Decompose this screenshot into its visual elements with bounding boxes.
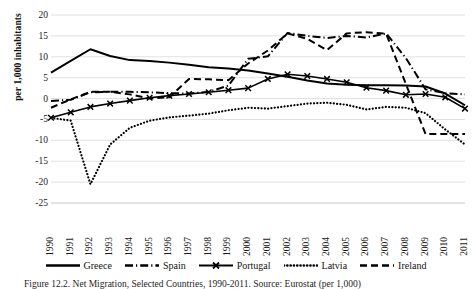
x-tick-2010: 2010 <box>440 237 450 256</box>
x-tick-1993: 1993 <box>105 237 115 256</box>
legend-label-portugal: Portugal <box>237 260 271 271</box>
x-tick-1996: 1996 <box>164 237 174 256</box>
y-tick-15: 15 <box>39 31 49 41</box>
x-tick-2011: 2011 <box>460 237 470 256</box>
x-tick-1994: 1994 <box>125 237 135 256</box>
legend-item-spain[interactable]: Spain <box>125 260 186 271</box>
y-tick-5: 5 <box>43 73 48 83</box>
y-tick-10: 10 <box>39 52 49 62</box>
x-tick-1999: 1999 <box>223 237 233 256</box>
y-axis-tick-labels: 20151050-5-10-15-20-25 <box>18 15 48 203</box>
dotted-line-key <box>284 260 318 271</box>
x-marker-line-key <box>199 260 233 271</box>
legend-label-spain: Spain <box>163 260 186 271</box>
chart-canvas <box>51 15 465 203</box>
legend-label-latvia: Latvia <box>322 260 348 271</box>
legend-item-portugal[interactable]: Portugal <box>199 260 271 271</box>
x-tick-2009: 2009 <box>421 237 431 256</box>
x-tick-1990: 1990 <box>46 237 56 256</box>
figure-caption: Figure 12.2. Net Migration, Selected Cou… <box>24 279 454 289</box>
x-tick-2007: 2007 <box>381 237 391 256</box>
series-line-latvia <box>51 103 465 184</box>
x-tick-2008: 2008 <box>401 237 411 256</box>
x-tick-2006: 2006 <box>361 237 371 256</box>
x-tick-1991: 1991 <box>66 237 76 256</box>
y-tick-0: 0 <box>43 94 48 104</box>
legend-label-ireland: Ireland <box>398 260 426 271</box>
x-tick-1997: 1997 <box>184 237 194 256</box>
x-tick-1995: 1995 <box>145 237 155 256</box>
legend-item-ireland[interactable]: Ireland <box>360 260 426 271</box>
x-tick-2001: 2001 <box>263 237 273 256</box>
y-tick--20: -20 <box>35 177 48 187</box>
chart-figure: per 1,000 inhabitants 20151050-5-10-15-2… <box>0 0 472 289</box>
x-tick-2002: 2002 <box>283 237 293 256</box>
y-tick--10: -10 <box>35 135 48 145</box>
series-line-spain <box>51 33 465 101</box>
legend-item-latvia[interactable]: Latvia <box>284 260 348 271</box>
dashed-line-key <box>360 260 394 271</box>
solid-line-key <box>46 260 80 271</box>
y-tick--15: -15 <box>35 156 48 166</box>
dash-dot-line-key <box>125 260 159 271</box>
y-tick-20: 20 <box>39 10 49 20</box>
y-tick--25: -25 <box>35 198 48 208</box>
x-tick-1992: 1992 <box>85 237 95 256</box>
plot-area <box>51 15 465 203</box>
legend-item-greece[interactable]: Greece <box>46 260 112 271</box>
chart-legend: GreeceSpainPortugalLatviaIreland <box>0 257 472 274</box>
x-tick-2005: 2005 <box>342 237 352 256</box>
series-line-portugal <box>51 74 465 117</box>
x-axis-tick-labels: 1990199119921993199419951996199719981999… <box>51 208 465 256</box>
x-tick-2000: 2000 <box>243 237 253 256</box>
legend-label-greece: Greece <box>84 260 112 271</box>
x-tick-2004: 2004 <box>322 237 332 256</box>
x-tick-1998: 1998 <box>204 237 214 256</box>
marker-portugal-2011 <box>462 106 468 112</box>
y-tick--5: -5 <box>40 114 48 124</box>
x-tick-2003: 2003 <box>302 237 312 256</box>
